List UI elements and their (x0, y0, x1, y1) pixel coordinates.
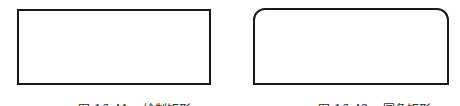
figure-title: 绘制矩形 (143, 103, 191, 106)
figure-draw-rectangle: 图 16-41绘制矩形 (0, 0, 230, 106)
plain-rectangle-shape (17, 9, 211, 85)
figure-number: 图 16-42 (318, 103, 368, 106)
figure-caption: 图 16-42圆角矩形 (303, 89, 431, 106)
figure-number: 图 16-41 (78, 103, 128, 106)
rounded-rectangle-shape (253, 8, 449, 85)
figure-caption: 图 16-41绘制矩形 (63, 89, 191, 106)
figure-title: 圆角矩形 (383, 103, 431, 106)
figure-rounded-rectangle: 图 16-42圆角矩形 (230, 0, 460, 106)
